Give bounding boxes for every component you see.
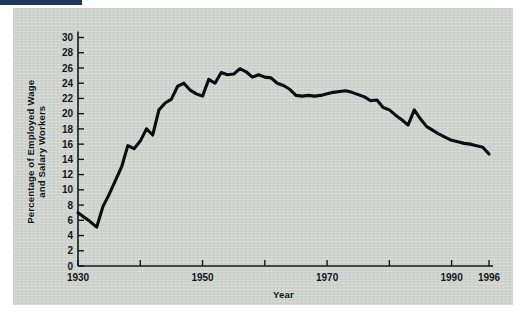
y-tick-label: 2	[67, 245, 73, 256]
x-tick-label: 1990	[441, 272, 464, 283]
x-tick-label: 1930	[67, 272, 90, 283]
y-tick-label: 30	[62, 32, 74, 43]
y-axis-title-text-2: and Salary Workers	[36, 106, 47, 198]
x-axis-title-text: Year	[273, 289, 294, 300]
data-series-line	[78, 69, 489, 227]
y-tick-label: 4	[67, 230, 73, 241]
axis-labels-layer: 0246810121416182022242628301930195019701…	[25, 32, 501, 300]
x-tick-label: 1970	[316, 272, 339, 283]
y-tick-label: 18	[62, 124, 74, 135]
axes-layer	[78, 32, 493, 267]
y-tick-label: 20	[62, 108, 74, 119]
y-axis-title-line-2: and Salary Workers	[36, 106, 47, 198]
y-tick-label: 26	[62, 63, 74, 74]
y-tick-label: 10	[62, 184, 74, 195]
y-axis-title-line-1: Percentage of Employed Wage	[25, 80, 36, 224]
y-tick-label: 8	[67, 200, 73, 211]
y-tick-label: 12	[62, 169, 74, 180]
y-axis-title-text-1: Percentage of Employed Wage	[25, 80, 36, 224]
y-tick-label: 22	[62, 93, 74, 104]
data-series-layer	[78, 69, 489, 227]
x-tick-label: 1950	[191, 272, 214, 283]
line-chart-plot: 0246810121416182022242628301930195019701…	[0, 0, 526, 320]
y-tick-label: 14	[62, 154, 74, 165]
x-tick-label: 1996	[478, 272, 501, 283]
y-tick-label: 6	[67, 215, 73, 226]
y-tick-label: 0	[67, 261, 73, 272]
y-tick-label: 28	[62, 47, 74, 58]
figure-root: 0246810121416182022242628301930195019701…	[0, 0, 526, 320]
y-tick-label: 24	[62, 78, 74, 89]
y-tick-label: 16	[62, 139, 74, 150]
